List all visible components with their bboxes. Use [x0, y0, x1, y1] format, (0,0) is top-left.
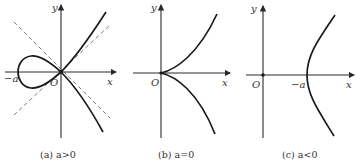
neg-a-label: −a [291, 79, 305, 90]
y-label: y [250, 3, 257, 14]
y-label: y [51, 2, 58, 13]
neg-a-label: −a [4, 73, 18, 84]
caption-c: (c) a<0 [282, 149, 317, 160]
y-label: y [150, 2, 157, 13]
curve-lower-branch [61, 72, 103, 132]
panel-b: y x O (b) a=0 [133, 2, 230, 160]
panel-c: y x O −a (c) a<0 [246, 3, 354, 160]
x-label: x [107, 76, 113, 87]
curve-upper-branch [61, 12, 106, 72]
x-label: x [346, 79, 352, 90]
origin-label: O [252, 79, 260, 90]
origin-point [261, 73, 265, 77]
curve-upper-branch [161, 14, 217, 73]
origin-point [159, 71, 162, 74]
panel-a: y x O −a (a) a>0 [4, 2, 116, 160]
curve-lower-branch [161, 73, 215, 134]
origin-label: O [50, 77, 58, 88]
caption-a: (a) a>0 [40, 149, 76, 160]
caption-b: (b) a=0 [158, 149, 194, 160]
x-label: x [222, 77, 228, 88]
origin-label: O [151, 77, 159, 88]
figure: y x O −a (a) a>0 y x O (b) a=0 y x O −a … [0, 0, 360, 168]
origin-point [59, 70, 63, 74]
